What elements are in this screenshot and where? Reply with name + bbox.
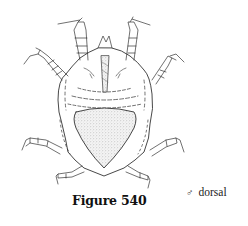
leg-1-left [58, 18, 88, 60]
leg-3-left [22, 138, 62, 154]
chelicerae [98, 36, 112, 48]
view-label: ♂dorsal [186, 186, 227, 198]
leg-3-right [150, 138, 184, 156]
leg-1-right [126, 17, 150, 60]
leg-2-left [24, 48, 68, 80]
figure-caption: Figure 540 [72, 193, 146, 208]
leg-2-right [152, 54, 184, 84]
male-symbol-icon: ♂ [186, 187, 194, 198]
dorsal-shield [74, 108, 136, 168]
figure: Figure 540 ♂dorsal [0, 0, 248, 226]
leg-4-right [126, 166, 150, 188]
leg-4-left [56, 166, 84, 184]
view-text: dorsal [199, 186, 227, 198]
